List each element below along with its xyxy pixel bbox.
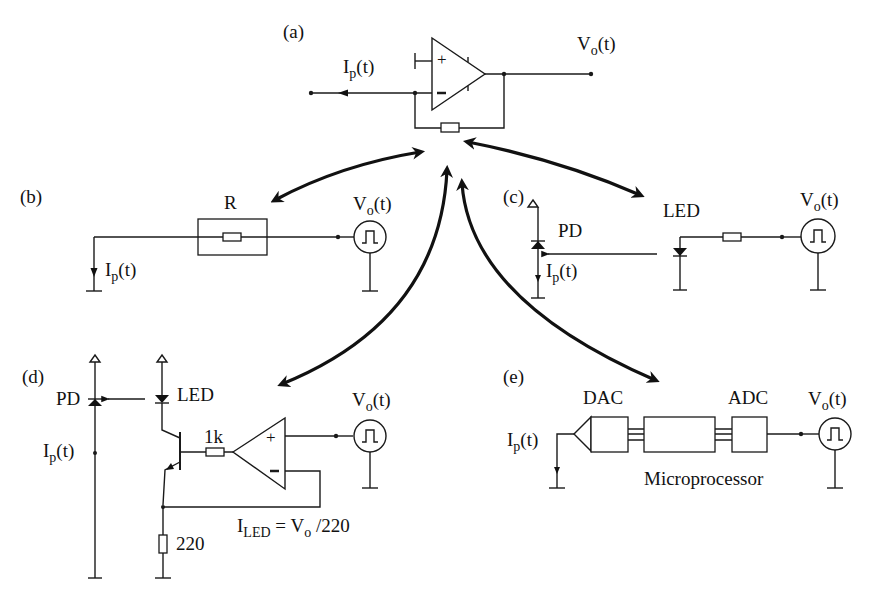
base-resistor-label: 1k [204,426,224,447]
panel-a: (a) + Ip(t) Vo(t) [283,21,616,132]
led-label: LED [663,200,700,221]
square-wave-source-icon [801,219,835,253]
opamp-plus: + [437,50,447,69]
data-bus [628,429,644,440]
led-icon [155,395,169,403]
arrow-a-b [275,152,420,200]
voltage-label: Vo(t) [808,388,847,413]
emitter-resistor-label: 220 [176,533,205,554]
voltage-label: Vo(t) [352,389,391,414]
microprocessor-block [644,417,715,452]
led-current-equation: ILED = Vo /220 [237,515,350,540]
panel-c: (c) PD Ip(t) LED Vo(t) [503,186,839,298]
microprocessor-label: Microprocessor [644,468,764,489]
led-icon [673,248,687,256]
output-wire [557,434,574,488]
current-arrow-icon [91,268,98,277]
photodiode-icon [531,241,545,249]
current-arrow-icon [93,451,97,455]
opamp-symbol [233,418,285,489]
dac-output-icon [574,417,591,451]
square-wave-source-icon [354,420,386,452]
resistor-symbol [223,233,241,241]
square-wave-source-icon [354,221,386,253]
current-label: Ip(t) [343,56,374,81]
square-wave-glyph [362,231,378,243]
adc-block [732,417,767,452]
supply-icon [90,355,100,362]
feedback-wire [163,471,320,507]
supply-icon [528,200,538,207]
base-resistor [206,448,224,456]
panel-e: (e) DAC ADC Microprocessor Ip(t) Vo(t) [503,366,851,489]
terminal-dot [309,91,313,95]
data-bus [715,429,732,440]
panel-b-label: (b) [20,186,42,208]
relation-arrows [275,142,655,384]
panel-d-label: (d) [22,366,44,388]
panel-c-label: (c) [503,186,524,208]
panel-e-label: (e) [503,366,524,388]
supply-icon [157,355,167,362]
current-arrow-icon [338,90,348,97]
led-resistor [723,233,741,241]
current-arrow-icon [535,275,541,282]
led-label: LED [177,384,214,405]
voltage-label: Vo(t) [577,33,616,58]
panel-a-label: (a) [283,21,304,43]
square-wave-source-icon [819,418,851,450]
voltage-label: Vo(t) [800,189,839,214]
dac-label: DAC [583,387,623,408]
current-label: Ip(t) [507,429,538,454]
square-wave-glyph [810,230,826,242]
pd-label: PD [56,388,80,409]
current-label: Ip(t) [105,259,136,284]
resistor-label: R [224,192,237,213]
current-label: Ip(t) [43,440,74,465]
emitter-resistor [159,535,167,553]
circuit-diagram: (a) + Ip(t) Vo(t) (b) [0,0,871,593]
arrow-a-c [468,142,640,195]
opamp-plus: + [266,428,276,447]
dac-block [591,417,628,452]
panel-b: (b) R Ip(t) Vo(t) [20,186,392,291]
pd-label: PD [558,220,582,241]
photodiode-icon [88,399,102,406]
feedback-wire [415,74,504,128]
feedback-resistor [441,123,459,132]
collector-wire [162,403,180,438]
square-wave-glyph [827,428,843,440]
opamp-symbol [432,38,485,110]
terminal-dot [589,72,593,76]
square-wave-glyph [362,430,378,442]
current-label: Ip(t) [546,260,577,285]
voltage-label: Vo(t) [353,193,392,218]
adc-label: ADC [728,387,768,408]
current-arrow-icon [554,467,560,474]
panel-d: (d) PD Ip(t) LED 1k + [22,355,391,578]
